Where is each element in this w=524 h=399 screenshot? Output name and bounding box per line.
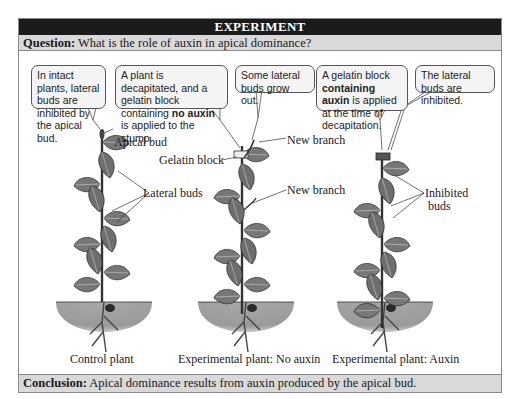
label-new-branch-top: New branch: [287, 133, 345, 148]
bubble-decapitated-no-auxin: A plant is decapitated, and a gelatin bl…: [115, 65, 228, 109]
label-lateral-buds: Lateral buds: [143, 186, 203, 201]
caption-no-auxin: Experimental plant: No auxin: [178, 352, 320, 367]
gelatin-block-icon: [376, 153, 390, 160]
auxin-plant-drawing: [337, 153, 433, 352]
bubble-intact-plants: In intact plants, lateral buds are inhib…: [31, 65, 106, 109]
bubble-lateral-inhibited: The lateral buds are inhibited.: [415, 65, 495, 93]
label-buds: buds: [428, 199, 451, 214]
label-gelatin-block: Gelatin block: [159, 153, 224, 168]
label-apical-bud: Apical bud: [114, 135, 167, 150]
caption-control-plant: Control plant: [70, 352, 134, 367]
label-new-branch-lower: New branch: [287, 183, 345, 198]
bubble-text-pre: A gelatin block: [322, 69, 390, 81]
caption-auxin: Experimental plant: Auxin: [332, 352, 459, 367]
bubble-text-bold: no auxin: [172, 107, 215, 119]
control-plant-drawing: [56, 129, 152, 352]
bubble-lateral-grow-out: Some lateral buds grow out.: [235, 65, 315, 93]
bubble-containing-auxin: A gelatin block containing auxin is appl…: [316, 65, 408, 111]
no-auxin-plant-drawing: [198, 140, 294, 352]
